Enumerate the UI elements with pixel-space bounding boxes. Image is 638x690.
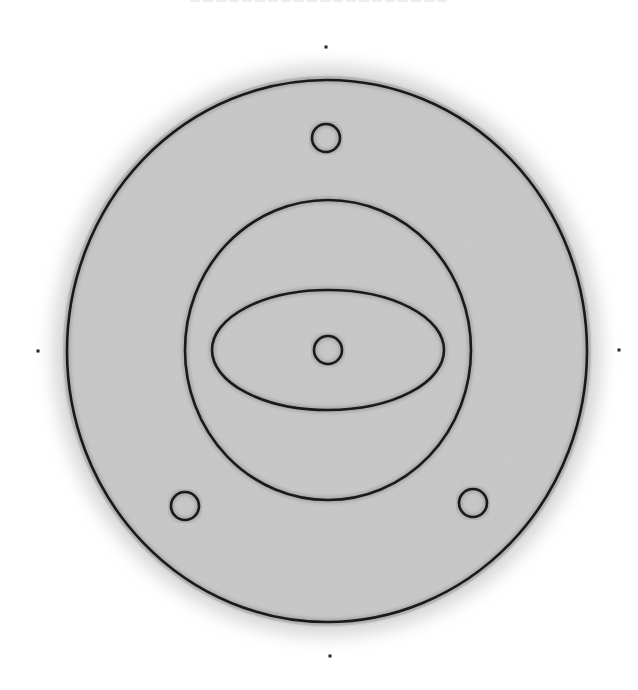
- marker-dot-bottom: [329, 655, 332, 658]
- marker-dot-left: [37, 350, 40, 353]
- marker-dot-top: [325, 46, 328, 49]
- marker-dot-right: [618, 349, 621, 352]
- concentric-diagram: [0, 0, 638, 690]
